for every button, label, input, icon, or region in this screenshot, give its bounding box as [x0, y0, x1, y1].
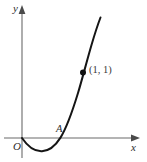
graph-canvas	[0, 0, 147, 162]
origin-label: O	[13, 141, 21, 152]
y-axis-label: y	[13, 3, 18, 14]
y-axis-arrow-icon	[19, 5, 26, 14]
x-axis-label: x	[131, 142, 136, 153]
graph-figure: y x O A (1, 1)	[0, 0, 147, 162]
point-a-label: A	[56, 124, 62, 135]
marked-point-label: (1, 1)	[89, 65, 112, 76]
marked-point-dot	[80, 70, 86, 76]
